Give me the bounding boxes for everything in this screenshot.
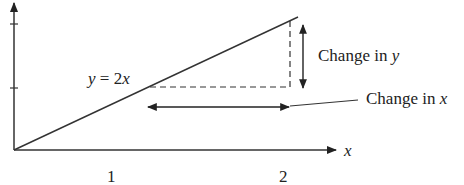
x-tick-label-1: 1 xyxy=(107,167,116,185)
x-tick-label-2: 2 xyxy=(279,167,288,185)
x-axis-label: x xyxy=(343,141,352,160)
equation-label: y = 2x xyxy=(86,69,130,88)
change-in-x-label: Change in x xyxy=(366,89,448,108)
change-in-y-label: Change in y xyxy=(318,46,400,65)
slope-diagram: y = 2x Change in y Change in x x 1 2 xyxy=(0,0,464,185)
function-line xyxy=(14,17,298,150)
change-in-x-leader xyxy=(290,100,358,106)
